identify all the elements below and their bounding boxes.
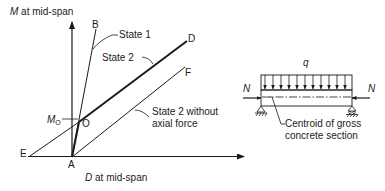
pin-support-left	[255, 106, 267, 116]
roller-support-right	[346, 106, 358, 117]
state1-label: State 1	[119, 29, 151, 40]
state2-no-axial-label-2: axial force	[152, 118, 198, 129]
point-o-label: O	[82, 118, 90, 129]
state2-label: State 2	[102, 52, 134, 63]
point-b-label: B	[92, 19, 99, 30]
distributed-load-box	[261, 75, 352, 90]
mo-label: MO	[47, 114, 61, 126]
beam-body	[261, 90, 352, 106]
x-axis-label: D at mid-span	[85, 172, 147, 183]
state2-leader	[142, 57, 153, 64]
y-axis-label: M at mid-span	[10, 6, 73, 17]
centroid-label-2: concrete section	[285, 130, 358, 141]
beam-sketch: q N N	[243, 57, 376, 141]
state1-leader	[93, 35, 118, 49]
point-a-label: A	[68, 159, 75, 170]
state2-no-axial-leader	[135, 110, 149, 117]
centroid-leader	[269, 97, 285, 124]
point-f-label: F	[185, 67, 191, 78]
moment-deflection-graph: M at mid-span D at mid-span B D F E A O …	[10, 6, 244, 183]
load-q-label: q	[303, 57, 309, 68]
diagram-canvas: M at mid-span D at mid-span B D F E A O …	[0, 0, 385, 191]
state2-no-axial-label-1: State 2 without	[152, 106, 218, 117]
centroid-label-1: Centroid of gross	[285, 118, 361, 129]
axial-force-left-label: N	[243, 83, 251, 94]
axial-force-right-label: N	[368, 83, 376, 94]
load-arrows	[265, 75, 345, 89]
point-d-label: D	[188, 33, 195, 44]
point-e-label: E	[20, 148, 27, 159]
